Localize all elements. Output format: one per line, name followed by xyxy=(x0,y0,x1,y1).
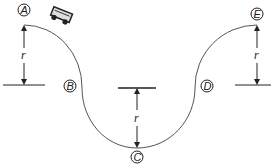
point-a-marker: A xyxy=(18,4,30,16)
point-c-label: C xyxy=(134,151,142,163)
point-d-label: D xyxy=(204,80,212,92)
center-radius-label: r xyxy=(134,111,139,125)
point-c-marker: C xyxy=(131,151,143,163)
right-radius-label: r xyxy=(254,48,259,62)
track-curve xyxy=(24,25,257,148)
left-radius-label: r xyxy=(21,48,26,62)
point-a-label: A xyxy=(20,4,28,16)
point-d-marker: D xyxy=(201,80,213,92)
car-icon xyxy=(49,7,72,26)
point-b-marker: B xyxy=(64,80,76,92)
point-e-label: E xyxy=(254,8,262,20)
point-b-label: B xyxy=(67,80,74,92)
point-e-marker: E xyxy=(251,8,263,20)
track-diagram: r r r A B C D E xyxy=(0,0,274,168)
